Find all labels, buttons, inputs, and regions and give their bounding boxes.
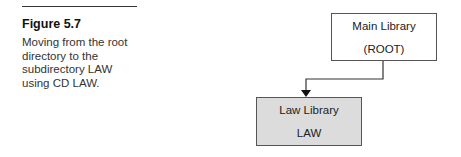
node-title: Main Library	[332, 20, 436, 32]
node-law-library: Law Library LAW	[256, 97, 362, 146]
node-subtitle: (ROOT)	[332, 43, 436, 55]
node-title: Law Library	[257, 104, 361, 116]
node-subtitle: LAW	[257, 127, 361, 139]
node-main-library: Main Library (ROOT)	[331, 13, 437, 61]
